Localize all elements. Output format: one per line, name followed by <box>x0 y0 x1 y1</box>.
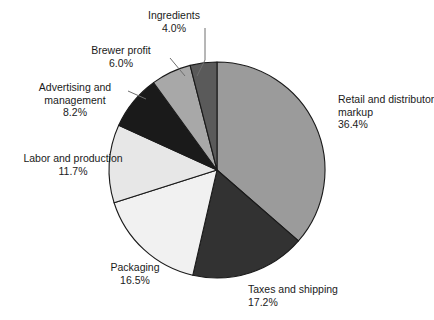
slice-label-labor-and-production: Labor and production 11.7% <box>8 152 138 177</box>
slice-value: 16.5% <box>91 274 179 287</box>
slice-label-text: markup <box>338 106 434 119</box>
slice-label-ingredients: Ingredients 4.0% <box>118 9 230 34</box>
slice-label-text: Advertising and <box>20 81 130 94</box>
slice-label-packaging: Packaging 16.5% <box>91 261 179 286</box>
slice-label-retail-and-distributor-markup: Retail and distributor markup 36.4% <box>338 93 434 131</box>
slice-value: 4.0% <box>118 22 230 35</box>
pie-slices-group <box>109 62 325 278</box>
slice-label-text: Labor and production <box>8 152 138 165</box>
slice-value: 8.2% <box>20 106 130 119</box>
slice-label-text: Taxes and shipping <box>248 283 338 296</box>
slice-label-text: Packaging <box>91 261 179 274</box>
slice-label-brewer-profit: Brewer profit 6.0% <box>65 44 177 69</box>
slice-label-advertising-and-management: Advertising and management 8.2% <box>20 81 130 119</box>
slice-label-text: Retail and distributor <box>338 93 434 106</box>
slice-value: 11.7% <box>8 165 138 178</box>
slice-value: 17.2% <box>248 296 338 309</box>
slice-label-taxes-and-shipping: Taxes and shipping 17.2% <box>248 283 338 308</box>
slice-label-text: management <box>20 94 130 107</box>
slice-label-text: Brewer profit <box>65 44 177 57</box>
slice-value: 36.4% <box>338 118 434 131</box>
slice-value: 6.0% <box>65 57 177 70</box>
slice-label-text: Ingredients <box>118 9 230 22</box>
